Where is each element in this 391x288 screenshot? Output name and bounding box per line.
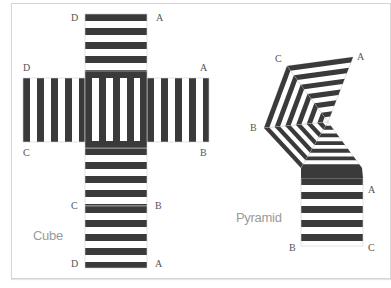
- vertex-label-a: A: [155, 258, 163, 269]
- vertex-label-b: B: [250, 122, 257, 133]
- vertex-label-a: A: [200, 62, 208, 73]
- cube-face-right: [147, 78, 209, 142]
- vertex-label-a: A: [368, 184, 376, 195]
- vertex-label-b: B: [155, 200, 162, 211]
- pyramid-caption: Pyramid: [236, 210, 282, 225]
- vertex-label-a: A: [156, 12, 164, 23]
- vertex-label-d: D: [71, 258, 78, 269]
- vertex-label-d: D: [23, 62, 30, 73]
- vertex-label-c: C: [23, 147, 30, 158]
- vertex-label-c: C: [71, 200, 78, 211]
- cube-face-bottom: [85, 206, 147, 268]
- vertex-label-c: C: [275, 53, 282, 64]
- cube-face-center: [85, 71, 147, 148]
- vertex-label-b: B: [200, 147, 207, 158]
- vertex-label-a: A: [357, 51, 365, 62]
- cube-face-left: [23, 78, 85, 142]
- vertex-label-b: B: [289, 242, 296, 253]
- cube-caption: Cube: [33, 228, 63, 243]
- cube-face-lower: [85, 148, 147, 206]
- vertex-label-c: C: [368, 242, 375, 253]
- pyramid-base: [301, 168, 363, 246]
- vertex-label-d: D: [71, 12, 78, 23]
- cube-face-top: [85, 14, 147, 78]
